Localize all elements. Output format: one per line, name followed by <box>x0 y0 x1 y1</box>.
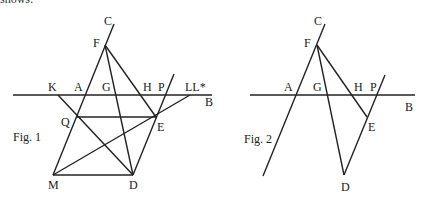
label-k: K <box>48 80 57 94</box>
fig2-label-a: A <box>284 80 293 94</box>
label-ll: LL* <box>185 80 206 94</box>
label-g: G <box>102 80 111 94</box>
label-m: M <box>48 178 59 192</box>
fig2-caption: Fig. 2 <box>244 132 272 146</box>
fig2-label-d: D <box>341 180 350 194</box>
fig2-label-e: E <box>368 120 375 134</box>
fig2-label-g: G <box>313 80 322 94</box>
label-f: F <box>93 36 100 50</box>
label-b: B <box>205 95 213 109</box>
fig2-label-b: B <box>405 100 413 114</box>
label-q: Q <box>61 115 70 129</box>
label-p: P <box>158 80 165 94</box>
fig2-label-c: C <box>314 14 322 28</box>
geometry-figures: C F K A G H P LL* B Q E M D Fig. 1 C F A… <box>0 0 425 199</box>
figure-1 <box>13 24 212 175</box>
fig2-label-f: F <box>304 36 311 50</box>
label-a: A <box>74 80 83 94</box>
fig2-label-h: H <box>354 80 363 94</box>
label-d: D <box>129 178 138 192</box>
label-c: C <box>104 14 112 28</box>
fig2-label-p: P <box>370 80 377 94</box>
label-h: H <box>143 80 152 94</box>
figure-2 <box>250 24 415 176</box>
fig1-caption: Fig. 1 <box>13 130 41 144</box>
label-e: E <box>157 120 164 134</box>
